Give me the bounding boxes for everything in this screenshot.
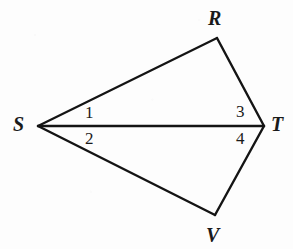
geometry-figure: R S T V 1 2 3 4 (0, 0, 293, 249)
segment-vs (38, 126, 215, 215)
angle-label-3: 3 (236, 103, 245, 120)
figure-canvas (0, 0, 293, 249)
angle-label-1: 1 (85, 104, 94, 121)
angle-label-4: 4 (236, 130, 245, 147)
vertex-label-r: R (208, 8, 221, 28)
segment-sr (38, 38, 217, 126)
vertex-label-s: S (13, 114, 24, 134)
angle-label-2: 2 (85, 130, 94, 147)
vertex-label-v: V (206, 225, 219, 245)
vertex-label-t: T (271, 114, 283, 134)
